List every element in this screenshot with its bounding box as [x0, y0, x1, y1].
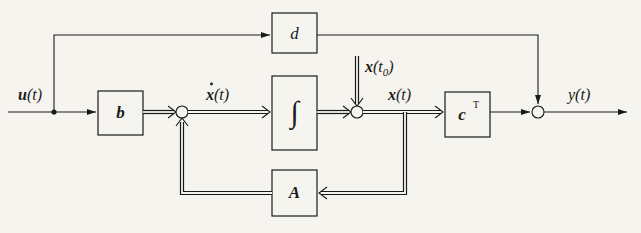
block-cT-label: c	[458, 105, 466, 124]
integrator-symbol: ∫	[288, 95, 300, 131]
block-A-label: A	[288, 183, 300, 202]
feedthrough-line	[54, 35, 270, 112]
xdot-dot	[210, 83, 213, 86]
summing-junction-3	[532, 106, 544, 118]
output-label: y(t)	[566, 86, 590, 104]
block-diagram: u(t) d b x(t) ∫ x(t0)	[0, 0, 641, 233]
xdot-vector-line	[188, 106, 270, 118]
b-to-sum1-vector-line	[143, 106, 176, 118]
block-d-label: d	[290, 24, 299, 43]
summing-junction-1	[176, 106, 188, 118]
input-signal	[8, 109, 96, 114]
d-to-sum3-line	[317, 35, 538, 104]
initial-condition-line	[351, 56, 363, 106]
xdot-label: x(t)	[205, 86, 229, 104]
block-cT	[445, 92, 490, 137]
integrator-to-sum2-line	[317, 106, 351, 118]
summing-junction-2	[351, 106, 363, 118]
input-label: u(t)	[18, 86, 42, 104]
block-b-label: b	[116, 103, 125, 122]
initial-condition-label: x(t0)	[364, 58, 394, 78]
A-to-sum1-line	[176, 118, 272, 193]
state-feedback-line	[319, 112, 405, 199]
transpose-superscript: T	[473, 99, 479, 110]
state-label: x(t)	[387, 86, 411, 104]
